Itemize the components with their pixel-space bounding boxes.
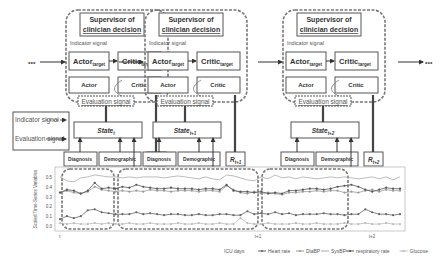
data-point (212, 223, 214, 225)
data-point (330, 188, 332, 190)
data-point (392, 214, 394, 216)
y-tick-label: 0.0 (46, 224, 53, 229)
data-point (163, 214, 165, 216)
data-point (59, 192, 61, 194)
y-tick-label: 0.4 (46, 185, 53, 190)
data-point (357, 186, 359, 188)
critic-label: Critic (210, 82, 226, 88)
data-point (94, 222, 96, 224)
data-point (316, 213, 318, 215)
data-point (128, 213, 130, 215)
data-point (107, 222, 109, 224)
data-point (198, 222, 200, 224)
data-point (94, 186, 96, 188)
data-point (142, 191, 144, 193)
data-point (323, 223, 325, 225)
data-point (302, 213, 304, 215)
data-point (288, 190, 290, 192)
data-point (177, 190, 179, 192)
data-point (66, 189, 68, 191)
data-point (343, 185, 345, 187)
data-point (350, 184, 352, 186)
data-point (295, 190, 297, 192)
data-point (156, 223, 158, 225)
data-point (218, 191, 220, 193)
legend-entry: Heart rate (268, 248, 290, 254)
data-point (59, 222, 61, 224)
diagnosis-label: Diagnosis (147, 156, 171, 162)
data-point (399, 223, 401, 225)
legend-entry: DiaBP (306, 248, 321, 254)
data-point (107, 187, 109, 189)
data-point (295, 192, 297, 194)
data-point (170, 187, 172, 189)
demographic-label: Demographic (321, 156, 353, 162)
supervisor-label-2: clinician decision (162, 26, 220, 33)
data-point (316, 190, 318, 192)
data-point (149, 189, 151, 191)
data-point (281, 223, 283, 225)
data-point (198, 189, 200, 191)
data-point (295, 222, 297, 224)
data-point (343, 192, 345, 194)
data-point (260, 191, 262, 193)
data-point (212, 188, 214, 190)
data-point (330, 190, 332, 192)
data-point (302, 191, 304, 193)
data-point (135, 223, 137, 225)
legend-entry: SysBP (331, 248, 347, 254)
data-point (239, 191, 241, 193)
data-point (371, 223, 373, 225)
data-point (73, 217, 75, 219)
data-point (156, 213, 158, 215)
data-point (170, 191, 172, 193)
data-point (330, 223, 332, 225)
data-point (114, 191, 116, 193)
data-point (357, 192, 359, 194)
ellipsis-right: ••• (425, 59, 433, 66)
data-point (246, 222, 248, 224)
data-point (371, 189, 373, 191)
data-point (253, 192, 255, 194)
data-point (350, 213, 352, 215)
data-point (212, 214, 214, 216)
data-point (371, 191, 373, 193)
supervisor-label-2: clinician decision (300, 26, 358, 33)
data-point (343, 214, 345, 216)
data-point (225, 223, 227, 225)
data-point (343, 222, 345, 224)
y-tick-label: 0.5 (46, 175, 53, 180)
indicator-signal-label: Indicator signal (70, 40, 107, 46)
demographic-label: Demographic (104, 156, 136, 162)
x-tick-label: t (59, 234, 61, 239)
data-point (350, 223, 352, 225)
data-point (156, 188, 158, 190)
y-tick-label: 0.3 (46, 195, 53, 200)
data-point (330, 213, 332, 215)
data-point (246, 193, 248, 195)
data-point (225, 184, 227, 186)
data-point (87, 223, 89, 225)
data-point (371, 211, 373, 213)
data-point (205, 190, 207, 192)
data-point (73, 192, 75, 194)
data-point (288, 212, 290, 214)
y-axis-label: Scaled Time-Series Variables (33, 169, 38, 228)
data-point (170, 223, 172, 225)
data-point (309, 213, 311, 215)
data-point (260, 212, 262, 214)
ellipsis-left: ••• (28, 59, 36, 66)
data-point (309, 223, 311, 225)
data-point (336, 190, 338, 192)
data-point (350, 191, 352, 193)
data-point (288, 192, 290, 194)
time-series-chart: 0.00.10.20.30.40.5Scaled Time-Series Var… (33, 167, 428, 254)
indicator-signal-label: Indicator signal (149, 40, 186, 46)
signal-legend: Indicator signal Evaluation signal (13, 112, 69, 150)
data-point (114, 213, 116, 215)
data-point (198, 191, 200, 193)
data-point (198, 213, 200, 215)
data-point (149, 212, 151, 214)
data-point (274, 211, 276, 213)
data-point (260, 223, 262, 225)
